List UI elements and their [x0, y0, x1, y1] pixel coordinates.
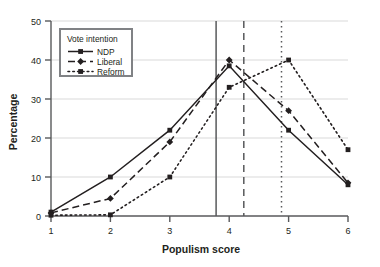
legend: Vote intention NDP Liberal Reform: [60, 29, 132, 77]
y-tick-label: 30: [31, 95, 41, 105]
y-tick-label: 40: [31, 56, 41, 66]
y-axis-title: Percentage: [7, 94, 19, 151]
x-tick-label: 6: [345, 226, 350, 236]
data-point: [167, 175, 172, 180]
data-point: [108, 175, 113, 180]
data-point: [108, 212, 113, 217]
data-point: [167, 128, 172, 133]
y-tick-label: 0: [36, 212, 41, 222]
y-tick-label: 10: [31, 173, 41, 183]
legend-label-liberal: Liberal: [97, 57, 122, 67]
y-tick-label: 50: [31, 17, 41, 27]
legend-label-reform: Reform: [97, 67, 124, 77]
x-tick-label: 3: [167, 226, 172, 236]
data-point: [286, 58, 291, 63]
legend-title: Vote intention: [67, 34, 118, 44]
y-tick-label: 20: [31, 134, 41, 144]
x-tick-label: 5: [286, 226, 291, 236]
legend-marker-reform: [78, 69, 83, 74]
legend-marker-ndp: [78, 49, 83, 54]
data-point: [227, 85, 232, 90]
x-axis-title: Populism score: [162, 243, 240, 255]
data-point: [227, 63, 232, 68]
chart-background: [0, 0, 380, 267]
x-tick-label: 4: [227, 226, 232, 236]
chart-figure: 50 40 30 20 10 0 1 2 3 4 5 6 Populism sc…: [0, 0, 380, 267]
data-point: [49, 213, 54, 218]
populism-vote-intention-line-chart: 50 40 30 20 10 0 1 2 3 4 5 6 Populism sc…: [0, 0, 380, 267]
legend-label-ndp: NDP: [97, 47, 115, 57]
data-point: [346, 147, 351, 152]
data-point: [286, 128, 291, 133]
x-tick-label: 1: [48, 226, 53, 236]
x-tick-label: 2: [108, 226, 113, 236]
